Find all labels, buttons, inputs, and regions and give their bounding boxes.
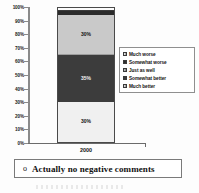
y-tick-label-80: 80% <box>0 32 24 37</box>
legend-label-somewhat-better: Somewhat better <box>129 76 166 81</box>
legend-item-much-better[interactable]: Much better <box>123 82 192 90</box>
bar-label-somewhat-better: 35% <box>81 76 91 81</box>
caption-box: o Actually no negative comments <box>14 159 182 178</box>
caption-text: Actually no negative comments <box>32 164 155 174</box>
legend-item-somewhat-better[interactable]: Somewhat better <box>123 74 192 82</box>
legend-label-much-better: Much better <box>129 84 155 89</box>
bar-segment-much-better[interactable]: 30% <box>58 102 114 142</box>
legend-swatch-somewhat-worse-icon <box>123 60 127 64</box>
caption-bullet: o <box>23 164 27 173</box>
y-tick-label-90: 90% <box>0 19 24 24</box>
y-tick-label-0: 0% <box>0 141 24 146</box>
y-tick-label-20: 20% <box>0 114 24 119</box>
y-tick-label-70: 70% <box>0 46 24 51</box>
bar-segment-somewhat-better[interactable]: 35% <box>58 55 114 102</box>
chart-legend[interactable]: Much worse Somewhat worse Just as well S… <box>119 47 195 93</box>
legend-label-much-worse: Much worse <box>129 52 156 57</box>
x-axis-end-tick <box>145 143 146 147</box>
y-tick-label-50: 50% <box>0 73 24 78</box>
legend-item-much-worse[interactable]: Much worse <box>123 50 192 58</box>
legend-swatch-somewhat-better-icon <box>123 76 127 80</box>
legend-label-somewhat-worse: Somewhat worse <box>129 60 167 65</box>
y-tick-label-60: 60% <box>0 59 24 64</box>
y-tick-label-40: 40% <box>0 87 24 92</box>
bar-label-just-as-well: 30% <box>81 32 91 37</box>
legend-item-just-as-well[interactable]: Just as well <box>123 66 192 74</box>
slide-page: 100% 90% 80% 70% 60% 50% 40% 30% 20% 10%… <box>0 0 199 193</box>
footer-artifact <box>36 185 126 189</box>
x-axis-line <box>28 143 146 144</box>
chart-plot-area: 100% 90% 80% 70% 60% 50% 40% 30% 20% 10%… <box>0 0 199 150</box>
legend-swatch-much-better-icon <box>123 84 127 88</box>
legend-item-somewhat-worse[interactable]: Somewhat worse <box>123 58 192 66</box>
y-tick-label-10: 10% <box>0 127 24 132</box>
bar-label-much-better: 30% <box>81 119 91 124</box>
y-tick-label-30: 30% <box>0 100 24 105</box>
legend-swatch-just-as-well-icon <box>123 68 127 72</box>
stacked-bar-2000[interactable]: 30% 35% 30% <box>57 7 115 143</box>
x-category-label-2000: 2000 <box>57 147 115 153</box>
y-tick-label-100: 100% <box>0 5 24 10</box>
legend-swatch-much-worse-icon <box>123 52 127 56</box>
legend-label-just-as-well: Just as well <box>129 68 155 73</box>
bar-segment-just-as-well[interactable]: 30% <box>58 15 114 55</box>
